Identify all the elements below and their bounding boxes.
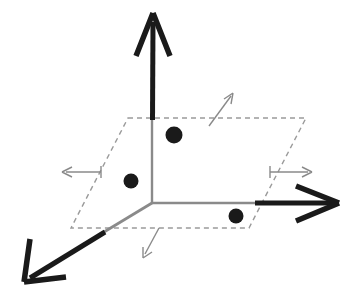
point-lower-right	[229, 209, 244, 224]
coordinate-axes-diagram	[0, 0, 351, 302]
figure-canvas	[0, 0, 351, 302]
point-left	[124, 174, 139, 189]
z-axis-shaft	[153, 22, 154, 120]
background-rect	[0, 0, 351, 302]
point-upper	[166, 127, 183, 144]
